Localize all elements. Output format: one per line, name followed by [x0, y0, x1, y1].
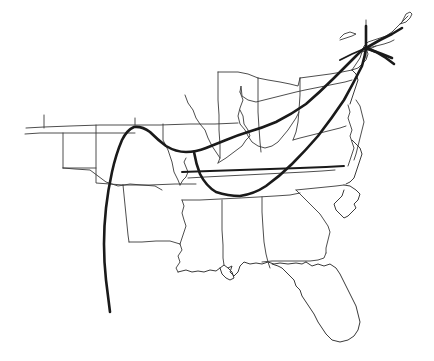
border-delmarva: [354, 100, 364, 160]
coastline-carolina: [334, 185, 360, 218]
border-mississippi-west: [176, 244, 182, 272]
border-arkansas-louisiana: [129, 241, 180, 244]
border-illinois-indiana: [218, 72, 220, 158]
state-borders-layer: [25, 12, 412, 342]
border-wv-panhandle: [240, 80, 352, 102]
map-drawing: [0, 0, 434, 361]
border-indiana-ohio: [258, 78, 261, 152]
coastline-florida: [272, 262, 360, 342]
route-segment-southwest: [104, 127, 248, 312]
border-oklahoma-panhandle-north: [25, 133, 135, 134]
border-kansas-missouri: [96, 125, 123, 185]
border-florida-north: [262, 253, 326, 262]
border-pennsylvania-north: [300, 70, 352, 78]
border-great-lakes-shore: [218, 72, 258, 78]
border-ohio-north: [258, 78, 300, 86]
border-missouri-east: [163, 124, 180, 185]
map-canvas: [0, 0, 434, 361]
border-chesapeake-bay: [348, 105, 354, 166]
border-georgia-south-carolina: [296, 190, 330, 253]
border-alabama-georgia: [262, 197, 270, 268]
border-arkansas-west: [123, 185, 129, 242]
border-mississippi-alabama: [222, 200, 224, 265]
route-spoke-northeast: [366, 28, 402, 48]
coastline-gulf: [178, 262, 306, 276]
border-arkansas-east: [180, 200, 186, 244]
border-upstate-new-york: [340, 32, 356, 40]
border-carolina: [296, 185, 344, 190]
border-west-virginia: [238, 92, 299, 148]
